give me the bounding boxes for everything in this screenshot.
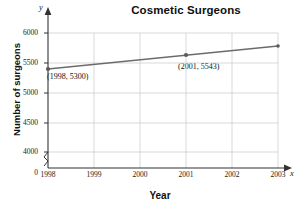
- data-point-marker-2001: [184, 53, 188, 57]
- horizontal-gridlines: [48, 33, 278, 152]
- y-axis-arrow: [45, 7, 52, 15]
- y-tick-marks: [44, 33, 48, 152]
- plot-area: [0, 0, 304, 208]
- x-axis-arrow: [284, 165, 292, 172]
- data-line-series-0: [48, 46, 278, 69]
- y-axis-break-icon: [44, 152, 48, 166]
- chart-container: Cosmetic Surgeons Number of surgeons Yea…: [0, 0, 304, 208]
- data-point-marker-1998: [46, 67, 50, 71]
- data-point-marker-2003: [276, 44, 280, 48]
